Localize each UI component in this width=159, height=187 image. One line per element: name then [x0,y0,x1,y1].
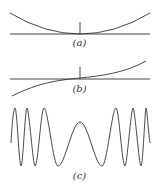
curve-c [11,108,150,166]
panel-c [11,108,150,166]
panel-a [10,13,150,34]
label-c: (c) [0,170,159,181]
label-a: (a) [0,37,159,48]
label-b: (b) [0,83,159,94]
